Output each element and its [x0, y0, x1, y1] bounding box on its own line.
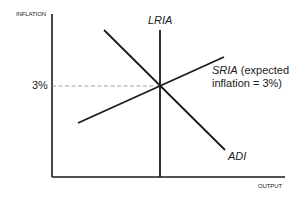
lria-label: LRIA — [148, 14, 172, 26]
sria-label: SRIA — [212, 64, 238, 76]
adi-curve — [104, 30, 225, 150]
sria-label-block: SRIA (expected inflation = 3%) — [212, 64, 289, 90]
sria-annotation-1: (expected — [238, 64, 289, 76]
x-axis-label: OUTPUT — [258, 183, 282, 189]
adi-label: ADI — [228, 150, 246, 162]
sria-curve — [78, 57, 224, 123]
diagram-canvas — [0, 0, 301, 199]
y-tick-3pct: 3% — [32, 79, 48, 91]
y-axis-label: INFLATION — [16, 11, 46, 17]
sria-annotation-2: inflation = 3%) — [212, 77, 289, 90]
